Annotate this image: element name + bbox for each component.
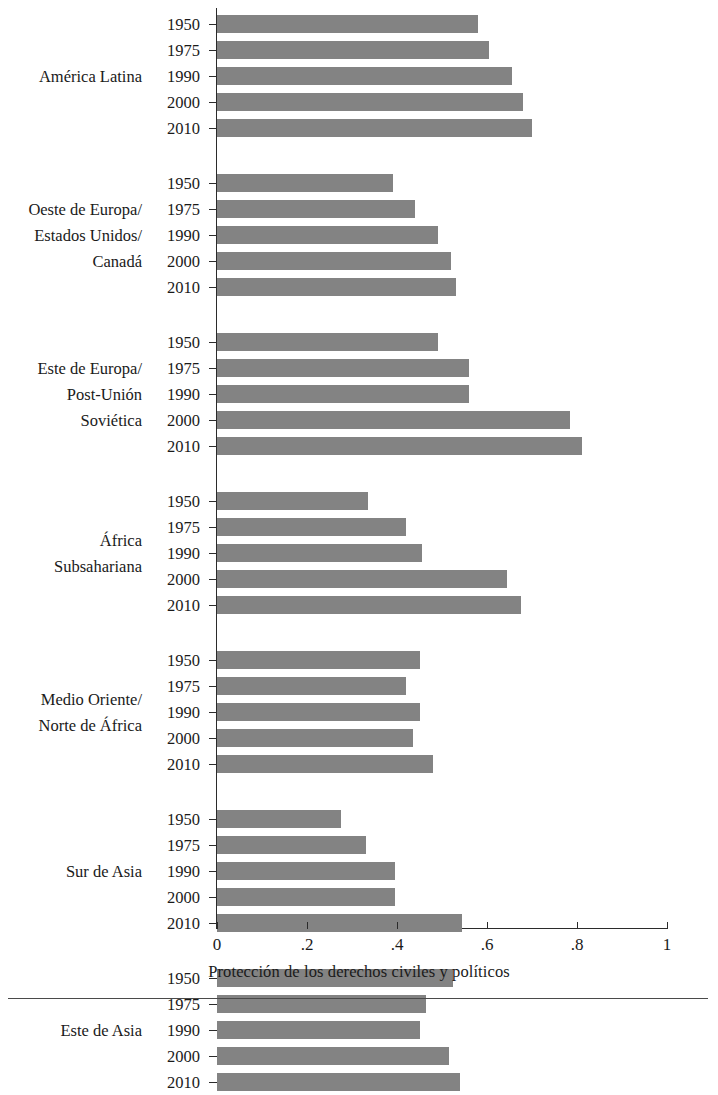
region-group-label: América Latina: [0, 64, 142, 90]
x-axis-tick-label: .6: [467, 935, 507, 955]
x-axis-tick-label: 0: [197, 935, 237, 955]
year-tick-label: 1990: [150, 859, 200, 884]
bar: [217, 570, 507, 588]
x-axis-tick: [217, 922, 218, 929]
bar-row: 1975: [0, 992, 718, 1018]
year-tick-label: 2000: [150, 408, 200, 433]
year-tick-label: 2010: [150, 1070, 200, 1095]
year-tick-label: 1975: [150, 674, 200, 699]
bar-row: 1950: [0, 330, 718, 356]
bar: [217, 93, 523, 111]
region-group-label: África Subsahariana: [0, 528, 142, 580]
year-tick-label: 1990: [150, 1018, 200, 1043]
bar-row: 1950: [0, 12, 718, 38]
y-axis-tick: [209, 342, 217, 343]
footer-divider: [8, 998, 708, 999]
bar-row: 2010: [0, 752, 718, 778]
year-tick-label: 1950: [150, 171, 200, 196]
y-axis-tick: [209, 1004, 217, 1005]
y-axis-tick: [209, 368, 217, 369]
y-axis-tick: [209, 871, 217, 872]
y-axis-line: [216, 8, 217, 928]
bar: [217, 888, 395, 906]
bar: [217, 67, 512, 85]
bar: [217, 703, 420, 721]
x-axis-tick: [397, 922, 398, 929]
y-axis-tick: [209, 1030, 217, 1031]
bar: [217, 651, 420, 669]
year-tick-label: 1975: [150, 515, 200, 540]
year-tick-label: 1950: [150, 648, 200, 673]
y-axis-tick: [209, 686, 217, 687]
bar-row: 2000: [0, 885, 718, 911]
year-tick-label: 1990: [150, 223, 200, 248]
y-axis-tick: [209, 845, 217, 846]
x-axis-tick: [667, 922, 668, 929]
year-tick-label: 2010: [150, 275, 200, 300]
bar: [217, 226, 438, 244]
year-tick-label: 2000: [150, 90, 200, 115]
y-axis-tick: [209, 712, 217, 713]
y-axis-tick: [209, 235, 217, 236]
bar-row: 2010: [0, 1070, 718, 1095]
year-tick-label: 1990: [150, 700, 200, 725]
x-axis-tick-label: .4: [377, 935, 417, 955]
year-tick-label: 1950: [150, 330, 200, 355]
bar: [217, 411, 570, 429]
year-tick-label: 2000: [150, 567, 200, 592]
region-group-label: Medio Oriente/ Norte de África: [0, 687, 142, 739]
bar: [217, 252, 451, 270]
year-tick-label: 2000: [150, 885, 200, 910]
year-tick-label: 1975: [150, 833, 200, 858]
region-group-label: Oeste de Europa/ Estados Unidos/ Canadá: [0, 197, 142, 275]
y-axis-tick: [209, 1082, 217, 1083]
bar: [217, 1073, 460, 1091]
y-axis-tick: [209, 923, 217, 924]
bar: [217, 729, 413, 747]
bar: [217, 333, 438, 351]
bar: [217, 359, 469, 377]
bar-row: 2010: [0, 434, 718, 460]
y-axis-tick: [209, 287, 217, 288]
x-axis-tick-label: .8: [557, 935, 597, 955]
y-axis-tick: [209, 527, 217, 528]
y-axis-tick: [209, 897, 217, 898]
bar: [217, 836, 366, 854]
plot-area: 1950197519902000201019501975199020002010…: [0, 0, 718, 930]
y-axis-tick: [209, 764, 217, 765]
y-axis-tick: [209, 1056, 217, 1057]
bar-row: 2000: [0, 90, 718, 116]
bar: [217, 174, 393, 192]
x-axis-tick: [577, 922, 578, 929]
bar: [217, 914, 462, 932]
bar-row: 2010: [0, 275, 718, 301]
y-axis-tick: [209, 819, 217, 820]
y-axis-tick: [209, 128, 217, 129]
bar-row: 1975: [0, 38, 718, 64]
y-axis-tick: [209, 605, 217, 606]
bar-row: 2010: [0, 911, 718, 937]
year-tick-label: 2000: [150, 249, 200, 274]
bar: [217, 755, 433, 773]
bar: [217, 677, 406, 695]
bar-row: 1950: [0, 648, 718, 674]
y-axis-tick: [209, 76, 217, 77]
y-axis-tick: [209, 446, 217, 447]
bar: [217, 200, 415, 218]
y-axis-tick: [209, 24, 217, 25]
year-tick-label: 2010: [150, 434, 200, 459]
x-axis-tick: [307, 922, 308, 929]
y-axis-tick: [209, 209, 217, 210]
year-tick-label: 2010: [150, 752, 200, 777]
bar: [217, 1047, 449, 1065]
bar: [217, 437, 582, 455]
bar: [217, 15, 478, 33]
region-group-label: Este de Europa/ Post-Unión Soviética: [0, 356, 142, 434]
y-axis-tick: [209, 738, 217, 739]
bar-row: 2010: [0, 116, 718, 142]
x-axis-tick: [487, 922, 488, 929]
year-tick-label: 2000: [150, 726, 200, 751]
bar: [217, 385, 469, 403]
y-axis-tick: [209, 183, 217, 184]
